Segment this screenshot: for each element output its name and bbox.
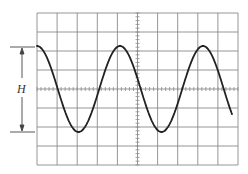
arrow-down-icon	[20, 125, 24, 131]
oscilloscope-diagram: H	[0, 0, 248, 174]
height-label: H	[16, 82, 27, 96]
arrow-up-icon	[20, 48, 24, 54]
